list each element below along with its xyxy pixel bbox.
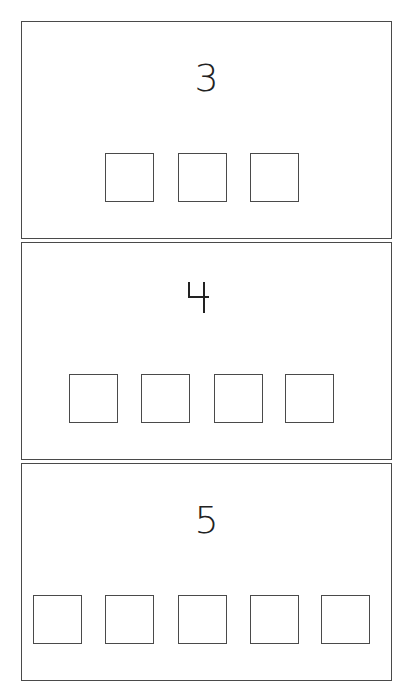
numeral-five: 5 — [22, 501, 391, 539]
answer-box-1[interactable] — [105, 153, 154, 202]
numeral-four — [184, 279, 214, 315]
answer-box-2[interactable] — [141, 374, 190, 423]
answer-box-2[interactable] — [105, 595, 154, 644]
answer-box-4[interactable] — [250, 595, 299, 644]
answer-box-5[interactable] — [321, 595, 370, 644]
panel-five: 5 — [21, 463, 392, 681]
answer-box-4[interactable] — [285, 374, 334, 423]
panel-three: 3 — [21, 21, 392, 239]
numeral-three: 3 — [22, 59, 391, 97]
answer-box-2[interactable] — [178, 153, 227, 202]
answer-box-3[interactable] — [178, 595, 227, 644]
panel-four: 4 — [21, 242, 392, 460]
answer-box-3[interactable] — [214, 374, 263, 423]
answer-box-1[interactable] — [69, 374, 118, 423]
answer-box-3[interactable] — [250, 153, 299, 202]
answer-box-1[interactable] — [33, 595, 82, 644]
numeral-four-text: 4 — [22, 243, 23, 244]
